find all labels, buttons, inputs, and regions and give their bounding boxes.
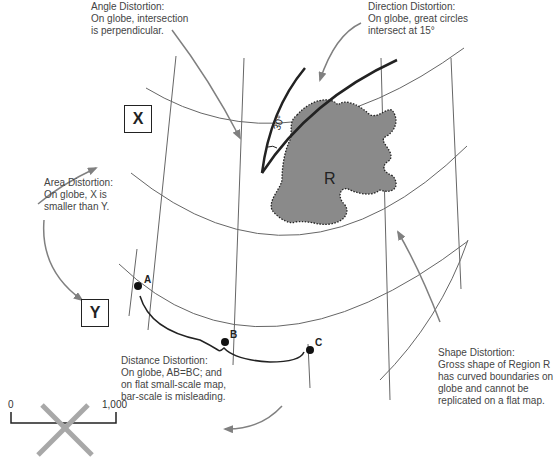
distance-distortion-line-3: bar-scale is misleading. — [121, 391, 226, 403]
box-x: X — [124, 105, 152, 133]
box-y: Y — [81, 299, 109, 327]
shape-distortion-line-2: has curved boundaries on — [438, 371, 553, 383]
direction-arrow — [320, 23, 361, 80]
direction-distortion-line-2: intersect at 15° — [368, 25, 435, 37]
angle-distortion-line-2: is perpendicular. — [91, 25, 164, 37]
point-c — [306, 346, 314, 354]
pointer-arrows — [38, 23, 440, 429]
scale-arrow — [225, 406, 282, 429]
area-arrow-down — [44, 220, 82, 300]
distance-distortion-line-2: on flat small-scale map, — [121, 379, 226, 391]
scale-end-label: 1,000 — [102, 399, 127, 410]
angle-arc — [268, 146, 277, 148]
meridian-line — [451, 58, 461, 289]
parallel-line — [119, 241, 468, 327]
shape-distortion-title: Shape Distortion: — [438, 347, 515, 359]
point-b-label: B — [230, 329, 237, 340]
direction-distortion-title: Direction Distortion: — [368, 1, 455, 13]
point-c-label: C — [315, 337, 322, 348]
scale-bar-cross — [38, 405, 92, 455]
shape-distortion-line-1: Gross shape of Region R — [438, 359, 550, 371]
area-distortion-line-1: On globe, X is — [44, 189, 107, 201]
area-distortion-line-2: smaller than Y. — [44, 201, 109, 213]
angle-distortion-line-1: On globe, intersection — [91, 13, 188, 25]
scale-bar — [11, 412, 116, 423]
distance-distortion-line-1: On globe, AB=BC; and — [121, 367, 222, 379]
meridian-line — [381, 58, 390, 400]
angle-arrow — [172, 30, 240, 138]
area-distortion-title: Area Distortion: — [44, 177, 113, 189]
angle-distortion-title: Angle Distortion: — [91, 1, 164, 13]
meridian-line — [129, 249, 137, 316]
region-r — [271, 100, 396, 225]
cross-stroke — [42, 405, 92, 455]
distance-brace — [140, 296, 304, 362]
meridians — [129, 56, 461, 400]
shape-arrow — [398, 232, 440, 322]
region-r-label: R — [324, 170, 336, 188]
shape-distortion-line-3: globe and cannot be — [438, 383, 529, 395]
scale-start-label: 0 — [8, 399, 14, 410]
point-a — [134, 282, 142, 290]
distance-distortion-title: Distance Distortion: — [121, 355, 208, 367]
shape-distortion-line-4: replicated on a flat map. — [438, 395, 545, 407]
direction-distortion-line-1: On globe, great circles — [368, 13, 468, 25]
point-a-label: A — [144, 274, 151, 285]
meridian-line — [233, 58, 244, 365]
point-b — [221, 338, 229, 346]
cross-stroke — [38, 405, 88, 455]
